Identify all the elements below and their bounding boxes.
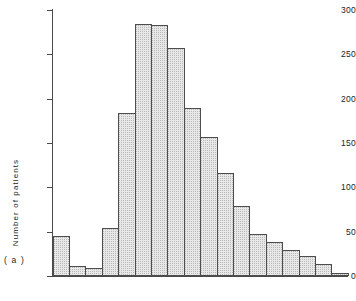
histogram-bar [315,264,333,276]
bars-layer [0,0,356,301]
histogram-bar [266,242,284,276]
histogram-bar [233,206,251,276]
histogram-bar [200,137,218,276]
histogram-bar [249,234,267,276]
histogram-bar [299,256,317,276]
histogram-bar [217,173,235,276]
histogram-bar [331,273,349,276]
histogram-bar [69,266,87,276]
histogram-bar [85,268,103,276]
histogram-bar [167,48,185,276]
histogram-bar [118,113,136,276]
histogram-bar [151,25,169,276]
histogram-bar [135,24,153,276]
histogram-figure: Number of patients ( a ) 050100150200250… [0,0,356,301]
histogram-bar [53,236,71,276]
histogram-bar [102,228,120,276]
histogram-bar [184,108,202,276]
histogram-bar [282,250,300,276]
